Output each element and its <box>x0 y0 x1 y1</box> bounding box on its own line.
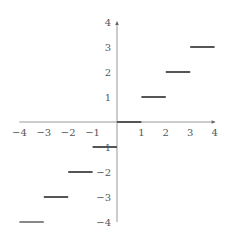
y-tick-label: −1 <box>96 142 111 153</box>
y-tick-label: 4 <box>105 17 111 28</box>
x-tick-label: −1 <box>85 127 100 138</box>
x-tick-label: 3 <box>187 127 193 138</box>
y-tick-label: −2 <box>96 167 111 178</box>
step-function-chart: −4−3−2−11234−4−3−2−11234 <box>0 0 231 240</box>
x-tick-label: −3 <box>36 127 51 138</box>
x-tick-label: −4 <box>12 127 27 138</box>
x-tick-label: 4 <box>211 127 217 138</box>
x-axis-arrow-icon <box>212 120 216 124</box>
y-tick-label: −4 <box>96 217 111 228</box>
y-axis-arrow-icon <box>115 21 119 25</box>
x-tick-label: 2 <box>163 127 169 138</box>
y-tick-label: 2 <box>105 67 111 78</box>
y-tick-label: −3 <box>96 192 111 203</box>
y-tick-label: 1 <box>105 92 111 103</box>
x-tick-label: 1 <box>138 127 144 138</box>
x-tick-label: −2 <box>61 127 76 138</box>
y-tick-label: 3 <box>105 42 111 53</box>
